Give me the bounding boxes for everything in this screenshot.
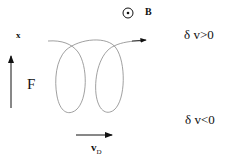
- upper-region-label: δ v>0: [184, 28, 214, 41]
- lower-region-label: δ v<0: [185, 113, 215, 126]
- trajectory-arrowhead: [132, 40, 146, 41]
- gyration-trajectory: [48, 40, 140, 113]
- drift-velocity-subscript: D: [97, 148, 102, 156]
- x-axis-label: x: [16, 31, 21, 40]
- field-label: B: [145, 7, 152, 17]
- force-label: F: [27, 77, 35, 92]
- drift-velocity-label: vD: [91, 142, 102, 156]
- drift-diagram: x F B δ v>0 δ v<0 vD: [0, 0, 232, 163]
